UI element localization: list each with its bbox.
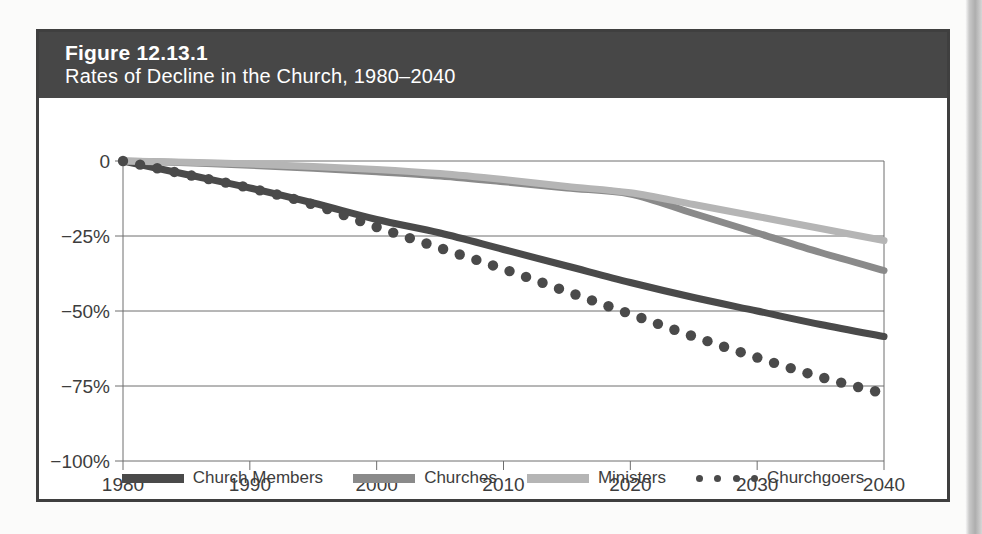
series-dot	[752, 352, 762, 362]
y-tick-label: −75%	[61, 376, 110, 397]
figure-header: Figure 12.13.1 Rates of Decline in the C…	[39, 32, 947, 98]
series-dot	[118, 156, 128, 166]
series-dot	[405, 233, 415, 243]
series-dot	[488, 260, 498, 270]
series-dot	[455, 249, 465, 259]
series-dot	[255, 185, 265, 195]
y-tick-label: 0	[99, 151, 110, 172]
series-dot	[339, 210, 349, 220]
series-line	[123, 161, 884, 241]
figure-container: Figure 12.13.1 Rates of Decline in the C…	[36, 29, 950, 502]
series-dot	[554, 283, 564, 293]
series-dot	[802, 368, 812, 378]
series-dot	[471, 255, 481, 265]
series-dot	[289, 194, 299, 204]
series-dot	[504, 266, 514, 276]
chart-area: 0−25%−50%−75%−100%1980199020002010202020…	[39, 98, 947, 499]
series-dot	[786, 363, 796, 373]
legend-label: Ministers	[598, 468, 666, 488]
legend-item: Ministers	[527, 468, 666, 488]
series-dot	[438, 244, 448, 254]
series-dot	[702, 336, 712, 346]
legend-swatch	[527, 474, 589, 483]
series-dot	[521, 272, 531, 282]
series-dot	[686, 330, 696, 340]
series-dot	[355, 216, 365, 226]
figure-subtitle: Rates of Decline in the Church, 1980–204…	[65, 64, 947, 89]
series-dot	[570, 289, 580, 299]
series-dot	[636, 313, 646, 323]
series-dot	[322, 204, 332, 214]
y-tick-label: −50%	[61, 301, 110, 322]
chart-legend: Church MembersChurchesMinistersChurchgoe…	[39, 463, 947, 493]
y-tick-label: −25%	[61, 226, 110, 247]
series-dot	[836, 377, 846, 387]
legend-label: Church Members	[193, 468, 323, 488]
figure-number: Figure 12.13.1	[65, 41, 947, 64]
legend-swatch	[122, 474, 184, 483]
series-dot	[169, 167, 179, 177]
line-chart: 0−25%−50%−75%−100%1980199020002010202020…	[39, 98, 947, 499]
series-dot	[603, 301, 613, 311]
series-dot	[669, 325, 679, 335]
series-dot	[152, 163, 162, 173]
legend-dotted-swatch	[696, 474, 758, 483]
series-dot	[819, 373, 829, 383]
series-dot	[305, 199, 315, 209]
series-dot	[736, 347, 746, 357]
series-line	[123, 161, 884, 337]
series-dot	[135, 159, 145, 169]
series-dot	[238, 181, 248, 191]
series-dot	[769, 358, 779, 368]
series-dot	[203, 174, 213, 184]
legend-item: Churchgoers	[696, 468, 864, 488]
series-dot	[853, 382, 863, 392]
series-dot	[221, 177, 231, 187]
series-dot	[272, 189, 282, 199]
page-edge-shadow	[965, 0, 982, 534]
series-dot	[653, 319, 663, 329]
series-dot	[388, 227, 398, 237]
legend-swatch	[353, 474, 415, 483]
series-dot	[587, 295, 597, 305]
legend-item: Churches	[353, 468, 497, 488]
legend-label: Churches	[424, 468, 497, 488]
series-dotted	[118, 156, 881, 397]
legend-item: Church Members	[122, 468, 323, 488]
series-dot	[537, 278, 547, 288]
series-dot	[719, 342, 729, 352]
series-dot	[371, 222, 381, 232]
legend-label: Churchgoers	[767, 468, 864, 488]
series-dot	[870, 386, 880, 396]
series-dot	[620, 307, 630, 317]
series-dot	[421, 238, 431, 248]
series-dot	[186, 170, 196, 180]
